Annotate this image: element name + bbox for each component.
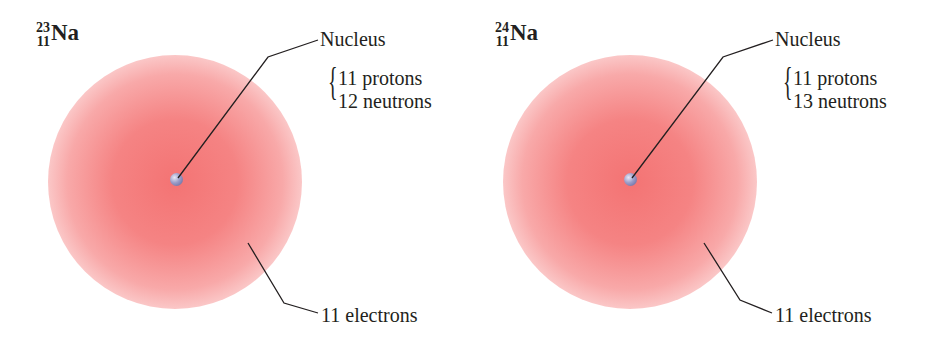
electrons-leader-line <box>248 243 318 313</box>
leader-lines <box>0 0 930 345</box>
nucleus-leader-line <box>632 40 773 178</box>
electrons-leader-line <box>704 243 772 313</box>
nucleus-leader-line <box>178 40 318 178</box>
